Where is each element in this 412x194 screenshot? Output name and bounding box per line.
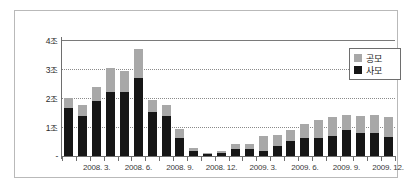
x-axis-tick: [284, 156, 285, 161]
y-axis-tick-label: 1조: [28, 121, 58, 133]
bar-column: [148, 100, 157, 156]
x-axis-tick: [270, 156, 271, 161]
legend-item: 공모: [354, 52, 396, 64]
bar-column: [78, 105, 87, 156]
legend-label: 사모: [366, 64, 381, 77]
x-axis-tick: [90, 156, 91, 161]
y-axis-tick-labels: -1조2조3조4조: [25, 11, 58, 194]
chart-legend: 공모사모: [349, 48, 401, 80]
x-axis-tick: [187, 156, 188, 161]
bar-segment-private-placement: [356, 133, 365, 156]
x-axis-tick: [201, 156, 202, 161]
x-axis-tick: [215, 156, 216, 161]
x-axis-tick: [312, 156, 313, 161]
bar-segment-private-placement: [231, 149, 240, 156]
bar-segment-private-placement: [162, 116, 171, 156]
bar-column: [300, 124, 309, 156]
x-axis-tick-label: 2008. 9.: [166, 163, 193, 172]
bar-segment-private-placement: [217, 153, 226, 156]
bar-segment-public-offering: [120, 71, 129, 91]
x-axis-tick: [173, 156, 174, 161]
bar-segment-private-placement: [203, 154, 212, 156]
bar-segment-public-offering: [342, 115, 351, 130]
bar-column: [162, 105, 171, 156]
bar-column: [217, 151, 226, 156]
bar-segment-private-placement: [64, 108, 73, 156]
bar-segment-public-offering: [259, 136, 268, 151]
bar-column: [203, 153, 212, 156]
legend-swatch-icon: [354, 66, 362, 74]
x-axis-tick: [395, 156, 396, 161]
bar-segment-private-placement: [106, 92, 115, 156]
x-axis-tick: [76, 156, 77, 161]
x-axis-tick: [367, 156, 368, 161]
bar-column: [259, 136, 268, 156]
bar-segment-private-placement: [134, 78, 143, 156]
bar-segment-public-offering: [148, 100, 157, 112]
bar-segment-public-offering: [356, 116, 365, 133]
x-axis-tick: [298, 156, 299, 161]
bar-column: [231, 144, 240, 156]
bar-column: [384, 117, 393, 156]
bar-segment-public-offering: [370, 115, 379, 134]
x-axis-tick: [118, 156, 119, 161]
bar-column: [92, 87, 101, 156]
y-axis-tick-label: 4조: [28, 34, 58, 46]
bar-column: [134, 49, 143, 156]
chart-figure-frame: -1조2조3조4조 2008. 3.2008. 6.2008. 9.2008. …: [14, 10, 398, 178]
bar-segment-public-offering: [175, 129, 184, 138]
legend-swatch-icon: [354, 54, 362, 62]
bar-column: [245, 144, 254, 156]
x-axis-tick: [145, 156, 146, 161]
bar-segment-public-offering: [384, 117, 393, 136]
bar-segment-private-placement: [273, 146, 282, 156]
bar-segment-public-offering: [92, 87, 101, 101]
x-axis-tick-label: 2009. 12.: [372, 163, 404, 172]
y-axis-tick-label: 3조: [28, 63, 58, 75]
bar-segment-private-placement: [175, 138, 184, 156]
x-axis-tick: [340, 156, 341, 161]
x-axis-tick: [381, 156, 382, 161]
bar-segment-private-placement: [92, 101, 101, 156]
bar-segment-private-placement: [342, 130, 351, 156]
bar-segment-public-offering: [273, 135, 282, 147]
x-axis-tick-label: 2009. 6.: [291, 163, 318, 172]
x-axis-tick: [256, 156, 257, 161]
bar-segment-public-offering: [106, 68, 115, 93]
bar-segment-public-offering: [286, 130, 295, 141]
bar-column: [370, 115, 379, 156]
x-axis-tick: [159, 156, 160, 161]
bar-column: [175, 129, 184, 156]
x-axis-tick: [353, 156, 354, 161]
x-axis-tick: [326, 156, 327, 161]
x-axis-tick: [229, 156, 230, 161]
plot-area: [62, 40, 395, 156]
bar-segment-public-offering: [300, 124, 309, 138]
bar-segment-private-placement: [328, 136, 337, 156]
bar-segment-private-placement: [78, 116, 87, 156]
bar-segment-public-offering: [64, 98, 73, 108]
bar-segment-public-offering: [328, 117, 337, 136]
x-axis-tick-label: 2009. 3.: [250, 163, 277, 172]
bar-segment-private-placement: [300, 138, 309, 156]
x-axis-tick-label: 2009. 9.: [333, 163, 360, 172]
bar-column: [120, 71, 129, 156]
bar-segment-private-placement: [384, 137, 393, 156]
bar-column: [189, 148, 198, 156]
x-axis-tick: [104, 156, 105, 161]
x-axis-tick: [62, 156, 63, 161]
y-axis-tick-label: 2조: [28, 92, 58, 104]
bar-column: [342, 115, 351, 156]
bar-segment-private-placement: [189, 151, 198, 157]
bar-column: [286, 130, 295, 156]
bar-segment-public-offering: [162, 105, 171, 116]
bar-column: [64, 98, 73, 156]
bar-column: [356, 116, 365, 156]
bar-segment-public-offering: [78, 105, 87, 116]
x-axis-tick-label: 2008. 3.: [83, 163, 110, 172]
bar-column: [106, 68, 115, 156]
bar-segment-private-placement: [314, 138, 323, 156]
bar-column: [273, 135, 282, 156]
bar-segment-private-placement: [245, 149, 254, 156]
bar-segment-public-offering: [134, 49, 143, 78]
